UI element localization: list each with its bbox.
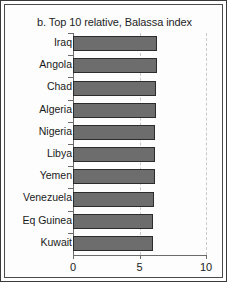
chart-title: b. Top 10 relative, Balassa index: [5, 16, 224, 28]
y-tick: [68, 144, 73, 145]
category-label: Chad: [47, 80, 72, 92]
y-tick: [68, 233, 73, 234]
bar: [73, 169, 155, 184]
y-tick: [68, 33, 73, 34]
category-label: Algeria: [39, 103, 72, 115]
bar: [73, 36, 157, 51]
bar: [73, 192, 154, 207]
figure-panel: b. Top 10 relative, Balassa index IraqAn…: [0, 0, 227, 282]
category-label: Venezuela: [23, 191, 72, 203]
bar: [73, 147, 155, 162]
category-label: Iraq: [54, 36, 72, 48]
figure-inner-frame: b. Top 10 relative, Balassa index IraqAn…: [4, 4, 223, 278]
bar-row: Iraq: [5, 33, 224, 55]
bar-row: Kuwait: [5, 233, 224, 255]
bar: [73, 125, 155, 140]
category-label: Eq Guinea: [22, 214, 72, 226]
category-label: Angola: [39, 58, 72, 70]
bar: [73, 81, 156, 96]
category-label: Yemen: [40, 169, 72, 181]
bar-row: Yemen: [5, 166, 224, 188]
bar: [73, 103, 156, 118]
bar-row: Venezuela: [5, 188, 224, 210]
y-tick: [68, 55, 73, 56]
y-tick: [68, 77, 73, 78]
y-tick: [68, 122, 73, 123]
bar-row: Libya: [5, 144, 224, 166]
y-tick: [68, 166, 73, 167]
category-label: Kuwait: [40, 236, 72, 248]
bar: [73, 236, 153, 251]
bar: [73, 214, 153, 229]
y-tick: [68, 211, 73, 212]
x-tick-label: 0: [70, 261, 76, 273]
bar-row: Nigeria: [5, 122, 224, 144]
y-tick: [68, 100, 73, 101]
bar-row: Algeria: [5, 100, 224, 122]
x-tick: [73, 255, 74, 259]
category-label: Libya: [47, 147, 72, 159]
plot-area: IraqAngolaChadAlgeriaNigeriaLibyaYemenVe…: [5, 30, 224, 279]
y-tick: [68, 188, 73, 189]
bar: [73, 58, 157, 73]
x-tick-label: 5: [136, 261, 142, 273]
bar-row: Chad: [5, 77, 224, 99]
bar-row: Angola: [5, 55, 224, 77]
category-label: Nigeria: [39, 125, 72, 137]
x-tick: [140, 255, 141, 259]
x-tick: [206, 255, 207, 259]
bar-row: Eq Guinea: [5, 211, 224, 233]
x-tick-label: 10: [200, 261, 212, 273]
